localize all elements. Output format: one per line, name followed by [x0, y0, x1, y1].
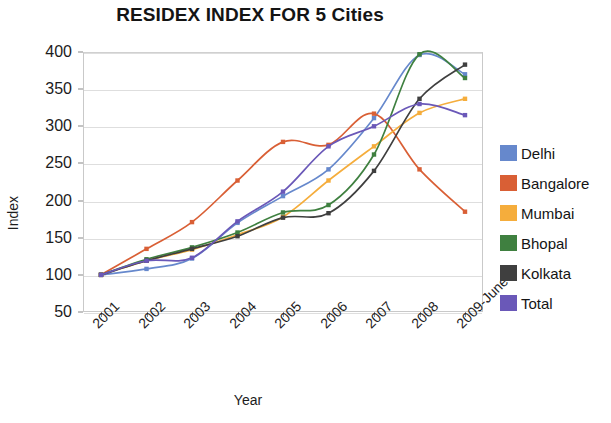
y-tick-label: 100: [45, 266, 72, 284]
legend: DelhiBangaloreMumbaiBhopalKolkataTotal: [500, 138, 611, 318]
plot-area: [83, 52, 483, 312]
legend-item-label: Total: [521, 296, 553, 311]
x-axis-title: Year: [183, 392, 313, 408]
y-tick-mark: [78, 52, 83, 53]
gridline: [84, 127, 482, 128]
y-tick-mark: [78, 163, 83, 164]
y-tick-label: 150: [45, 229, 72, 247]
y-tick-mark: [78, 89, 83, 90]
chart-container: RESIDEX INDEX FOR 5 Cities 5010015020025…: [0, 0, 611, 423]
y-tick-label: 300: [45, 117, 72, 135]
gridline: [84, 90, 482, 91]
legend-item-delhi[interactable]: Delhi: [500, 138, 611, 168]
y-tick-label: 350: [45, 80, 72, 98]
y-axis: 50100150200250300350400: [26, 52, 78, 312]
legend-item-label: Mumbai: [521, 206, 574, 221]
legend-item-bangalore[interactable]: Bangalore: [500, 168, 611, 198]
legend-item-label: Kolkata: [521, 266, 571, 281]
gridline: [84, 202, 482, 203]
gridline: [84, 164, 482, 165]
legend-item-bhopal[interactable]: Bhopal: [500, 228, 611, 258]
y-tick-mark: [78, 237, 83, 238]
y-tick-mark: [78, 274, 83, 275]
legend-color-swatch: [500, 295, 517, 311]
legend-item-total[interactable]: Total: [500, 288, 611, 318]
y-tick-label: 250: [45, 154, 72, 172]
legend-color-swatch: [500, 175, 517, 191]
legend-item-kolkata[interactable]: Kolkata: [500, 258, 611, 288]
y-axis-title: Index: [5, 173, 21, 253]
y-tick-label: 200: [45, 192, 72, 210]
y-tick-mark: [78, 200, 83, 201]
legend-color-swatch: [500, 265, 517, 281]
legend-item-label: Bhopal: [521, 236, 568, 251]
chart-title: RESIDEX INDEX FOR 5 Cities: [0, 4, 500, 26]
legend-color-swatch: [500, 145, 517, 161]
legend-color-swatch: [500, 205, 517, 221]
gridline: [84, 276, 482, 277]
gridline: [84, 53, 482, 54]
y-tick-label: 50: [54, 303, 72, 321]
y-tick-mark: [78, 126, 83, 127]
legend-item-label: Delhi: [521, 146, 555, 161]
legend-item-label: Bangalore: [521, 176, 589, 191]
gridlines: [84, 53, 482, 311]
legend-color-swatch: [500, 235, 517, 251]
y-tick-label: 400: [45, 43, 72, 61]
y-tick-mark: [78, 312, 83, 313]
legend-item-mumbai[interactable]: Mumbai: [500, 198, 611, 228]
gridline: [84, 239, 482, 240]
